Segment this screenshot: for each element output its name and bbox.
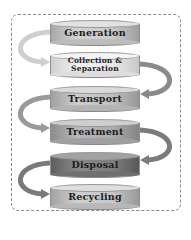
step-label: Treatment bbox=[50, 125, 140, 138]
step-disposal: Disposal bbox=[50, 152, 140, 177]
arrow-treatment-to-disposal bbox=[140, 130, 170, 165]
step-label: Collection & Separation bbox=[50, 57, 140, 73]
arrow-transport-to-treatment bbox=[20, 97, 50, 133]
step-transport: Transport bbox=[50, 86, 140, 111]
arrow-generation-to-collection bbox=[20, 32, 50, 67]
step-collection-separation: Collection & Separation bbox=[50, 52, 140, 77]
step-label: Transport bbox=[50, 92, 140, 105]
step-label: Disposal bbox=[50, 158, 140, 171]
arrow-disposal-to-recycling bbox=[20, 163, 50, 199]
step-label: Generation bbox=[50, 26, 140, 39]
step-label-line2: Separation bbox=[50, 65, 140, 73]
step-label: Recycling bbox=[50, 190, 140, 203]
arrow-collection-to-transport bbox=[140, 64, 170, 99]
step-generation: Generation bbox=[50, 20, 140, 45]
step-treatment: Treatment bbox=[50, 119, 140, 144]
step-recycling: Recycling bbox=[50, 184, 140, 209]
